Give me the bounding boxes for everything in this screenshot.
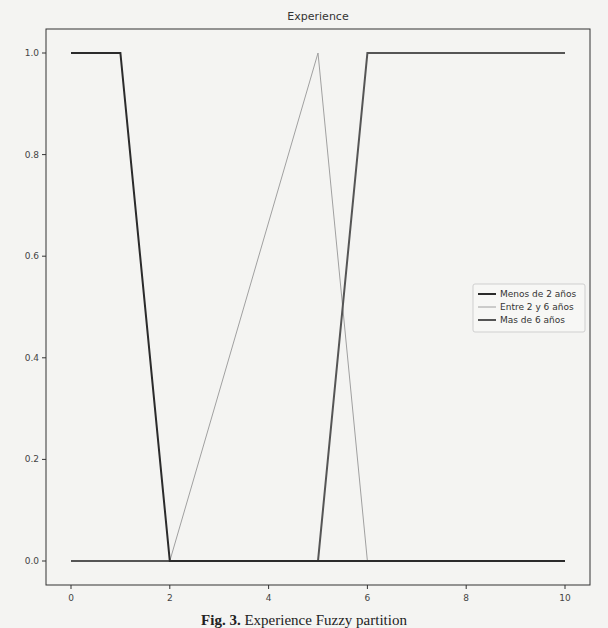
y-tick-label: 1.0: [25, 48, 40, 58]
x-tick-label: 2: [167, 593, 173, 603]
y-tick-label: 0.2: [25, 454, 39, 464]
caption-text: Experience Fuzzy partition: [244, 612, 406, 628]
y-tick-label: 0.6: [25, 251, 40, 261]
x-tick-label: 4: [266, 593, 272, 603]
y-tick-label: 0.4: [25, 353, 40, 363]
x-tick-label: 0: [68, 593, 74, 603]
figure-caption: Fig. 3. Experience Fuzzy partition: [0, 612, 608, 628]
legend: Menos de 2 añosEntre 2 y 6 añosMas de 6 …: [473, 284, 585, 332]
x-axis: 0246810: [68, 585, 571, 603]
legend-label: Mas de 6 años: [500, 315, 565, 325]
chart: Experience 0246810 0.00.20.40.60.81.0 Me…: [0, 0, 608, 610]
chart-title: Experience: [287, 10, 349, 23]
legend-label: Menos de 2 años: [500, 289, 576, 299]
x-tick-label: 6: [365, 593, 371, 603]
y-tick-label: 0.0: [25, 556, 40, 566]
x-tick-label: 10: [559, 593, 571, 603]
caption-label: Fig. 3.: [201, 612, 241, 628]
x-tick-label: 8: [463, 593, 469, 603]
y-axis: 0.00.20.40.60.81.0: [25, 48, 46, 566]
legend-label: Entre 2 y 6 años: [500, 302, 574, 312]
y-tick-label: 0.8: [25, 150, 40, 160]
